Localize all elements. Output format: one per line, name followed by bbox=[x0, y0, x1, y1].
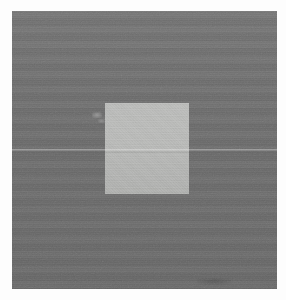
edge-smudge-artifact bbox=[197, 278, 231, 285]
surround-field bbox=[12, 11, 277, 289]
scan-blemish-artifact-secondary bbox=[98, 119, 105, 123]
test-patch-square bbox=[105, 103, 189, 194]
scan-blemish-artifact bbox=[92, 112, 102, 118]
figure-canvas bbox=[0, 0, 286, 300]
